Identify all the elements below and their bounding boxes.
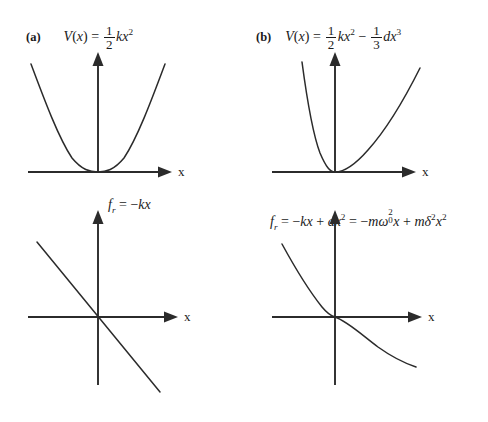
panel-a-potential: (a) V(x) = 1 2 kx2 x xyxy=(0,0,244,200)
panel-a-y-axis-arrowhead xyxy=(93,52,104,66)
panel-b-y-axis-arrowhead xyxy=(330,52,341,66)
panel-a-force-x-axis-label: x xyxy=(184,309,191,325)
panel-b-plot xyxy=(244,0,488,200)
panel-b-force-plot xyxy=(244,190,488,422)
panel-a-plot xyxy=(0,0,244,200)
panel-a-force-y-axis-arrowhead xyxy=(93,210,104,224)
panel-b-force-x-axis-arrowhead xyxy=(408,312,422,323)
panel-b-force-y-axis-arrowhead xyxy=(330,210,341,224)
panel-b-x-axis-label: x xyxy=(422,164,429,180)
panel-b-x-axis-arrowhead xyxy=(402,167,416,178)
panel-a-force: fr = −kx x xyxy=(0,190,244,422)
panel-b-force-x-axis-label: x xyxy=(428,309,435,325)
panel-a-force-x-axis-arrowhead xyxy=(164,312,178,323)
panel-a-x-axis-arrowhead xyxy=(158,167,172,178)
panel-b-potential-curve xyxy=(302,62,420,172)
panel-b-force: fr = −kx + dx2 = −mω02x + mδ2x2 x xyxy=(244,190,488,422)
physics-figure: (a) V(x) = 1 2 kx2 x (b) V(x) = xyxy=(0,0,488,422)
panel-b-force-curve xyxy=(282,244,416,367)
panel-b-potential: (b) V(x) = 1 2 kx2 − 1 3 dx3 x xyxy=(244,0,488,200)
panel-a-x-axis-label: x xyxy=(178,164,185,180)
panel-a-force-plot xyxy=(0,190,244,422)
